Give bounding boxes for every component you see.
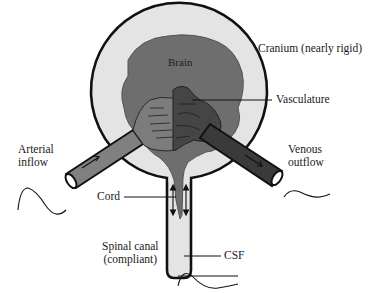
brain-label: Brain [168,56,192,69]
venous-outflow-label: Venous outflow [288,143,324,169]
cranium-label: Cranium (nearly rigid) [258,42,362,55]
csf-label: CSF [224,249,244,262]
spinal-canal-label: Spinal canal (compliant) [102,240,159,266]
intracranial-diagram: Brain Cranium (nearly rigid) Vasculature… [0,0,374,293]
arterial-pulse-waveform [18,188,66,214]
arterial-inflow-label: Arterial inflow [18,143,54,169]
vasculature-label: Vasculature [276,93,330,106]
venous-waveform [284,191,330,197]
cord-label: Cord [97,190,120,203]
